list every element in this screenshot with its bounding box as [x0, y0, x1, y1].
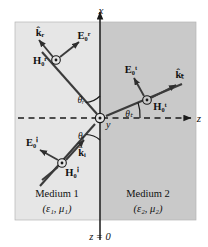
theta-i-label: θᵢ: [78, 131, 85, 141]
z-axis-label: z: [196, 112, 202, 124]
theta-r-label: θᵣ: [77, 95, 84, 105]
svg-text:E₀ᵗ: E₀ᵗ: [125, 64, 138, 75]
reflected-h-label: H₀ʳ: [33, 55, 47, 66]
medium-1-params: (ε₁, μ₁): [43, 203, 72, 215]
medium-1-name: Medium 1: [35, 188, 78, 199]
boundary-label: z = 0: [88, 231, 111, 242]
svg-text:H₀ᵗ: H₀ᵗ: [153, 101, 167, 112]
theta-t-label: θₜ: [125, 109, 133, 119]
incident-k-label: k̂ᵢ: [78, 146, 86, 158]
transmitted-h-dot-icon: [146, 99, 149, 102]
svg-text:k̂ₜ: k̂ₜ: [176, 68, 185, 80]
incident-h-label: H₀ⁱ: [65, 166, 78, 178]
transmitted-k-label: k̂ₜ: [176, 68, 185, 80]
medium-2-name: Medium 2: [126, 188, 169, 199]
y-axis-label: y: [105, 119, 111, 130]
svg-text:k̂ᵢ: k̂ᵢ: [78, 146, 86, 158]
origin-dot-icon: [99, 117, 102, 120]
medium-2-params: (ε₂, μ₂): [134, 203, 163, 215]
incident-h-dot-icon: [61, 162, 64, 165]
reflected-h-dot-icon: [55, 59, 58, 62]
reflected-k-label: k̂ᵣ: [36, 26, 45, 38]
svg-text:E₀ʳ: E₀ʳ: [78, 30, 91, 41]
svg-text:H₀ⁱ: H₀ⁱ: [65, 166, 78, 178]
incident-e-label: E₀ⁱ: [26, 136, 38, 148]
reflected-e-label: E₀ʳ: [78, 30, 91, 41]
x-axis-label: x: [98, 4, 104, 16]
svg-text:H₀ʳ: H₀ʳ: [33, 55, 47, 66]
diagram-canvas: x z θᵣ θᵢ θₜ y k̂ᵣ E₀ʳ H₀ʳ E₀ⁱ k̂ᵢ: [0, 0, 208, 247]
transmitted-h-label: H₀ᵗ: [153, 101, 167, 112]
transmitted-e-label: E₀ᵗ: [125, 64, 138, 75]
svg-text:E₀ⁱ: E₀ⁱ: [26, 136, 38, 148]
wave-incidence-diagram: x z θᵣ θᵢ θₜ y k̂ᵣ E₀ʳ H₀ʳ E₀ⁱ k̂ᵢ: [0, 0, 208, 247]
svg-text:k̂ᵣ: k̂ᵣ: [36, 26, 45, 38]
